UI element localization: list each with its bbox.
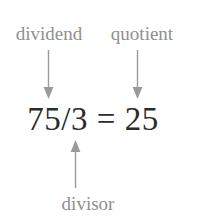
quotient-arrow-head	[133, 87, 143, 99]
divisor-arrow-head	[71, 140, 81, 152]
quotient-label: quotient	[93, 24, 191, 43]
divisor-label: divisor	[38, 194, 138, 213]
dividend-arrow	[44, 50, 54, 99]
quotient-arrow	[133, 50, 143, 99]
dividend-label: dividend	[0, 24, 98, 43]
divisor-arrow	[71, 140, 81, 188]
division-terms-diagram: dividend quotient 75/3 = 25 divisor	[0, 0, 199, 223]
division-equation: 75/3 = 25	[0, 103, 186, 136]
dividend-arrow-head	[44, 87, 54, 99]
